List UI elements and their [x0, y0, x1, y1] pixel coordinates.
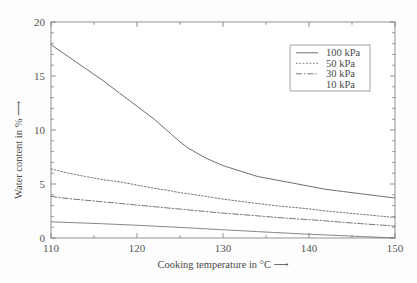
x-tick-label: 110 — [43, 242, 60, 254]
y-axis-title: Water content in % ⟶ — [13, 101, 24, 199]
legend-label: 100 kPa — [326, 47, 360, 58]
y-tick-label: 5 — [40, 178, 46, 190]
chart-figure: 05101520 110120130140150 Water content i… — [0, 0, 417, 283]
x-tick-label: 140 — [301, 242, 318, 254]
y-axis-title-label: Water content in % ⟶ — [13, 101, 24, 199]
x-tick-label: 130 — [215, 242, 232, 254]
x-axis-title-label: Cooking temperature in °C ⟶ — [157, 259, 288, 270]
chart-plot-area: 05101520 110120130140150 Water content i… — [0, 0, 417, 283]
legend-label: 10 kPa — [326, 79, 355, 90]
y-tick-label: 15 — [34, 70, 46, 82]
legend-label: 50 kPa — [326, 58, 355, 69]
chart-legend: 100 kPa50 kPa30 kPa10 kPa — [290, 45, 370, 91]
x-tick-label: 150 — [387, 242, 404, 254]
y-tick-label: 20 — [34, 16, 46, 28]
x-tick-label: 120 — [129, 242, 146, 254]
y-tick-label: 10 — [34, 124, 46, 136]
legend-label: 30 kPa — [326, 68, 355, 79]
